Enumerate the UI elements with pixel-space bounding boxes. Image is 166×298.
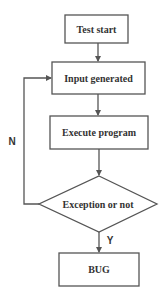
- exception-decision-label: Exception or not: [63, 199, 135, 210]
- edge-label-no: N: [8, 136, 15, 147]
- node-test-start: Test start: [65, 15, 128, 43]
- input-generated-label: Input generated: [64, 73, 133, 84]
- flowchart: Test start Input generated Execute progr…: [0, 0, 166, 298]
- arrow-no-loop-to-input: [24, 78, 51, 204]
- execute-program-label: Execute program: [62, 127, 137, 138]
- node-execute-program: Execute program: [50, 116, 148, 149]
- node-bug: BUG: [59, 253, 139, 286]
- node-input-generated: Input generated: [52, 62, 145, 94]
- edge-label-yes: Y: [107, 235, 114, 246]
- node-exception-decision: Exception or not: [39, 176, 157, 232]
- bug-label: BUG: [88, 264, 110, 275]
- test-start-label: Test start: [77, 24, 118, 35]
